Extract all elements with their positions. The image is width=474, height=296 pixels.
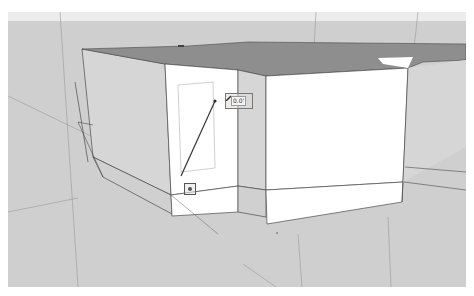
measurement-tooltip: 0.0' xyxy=(225,93,253,109)
endpoint-dot xyxy=(188,187,192,191)
screenshot-frame: 0.0' xyxy=(0,0,474,296)
inference-point-icon[interactable] xyxy=(184,183,196,195)
model-canvas[interactable] xyxy=(8,12,466,287)
modeling-viewport[interactable]: 0.0' xyxy=(8,12,466,287)
tooltip-label: 0.0' xyxy=(231,96,246,106)
